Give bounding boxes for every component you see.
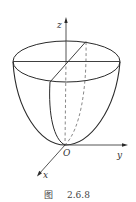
- x-axis-label: x: [43, 170, 48, 180]
- front-parabola: [50, 82, 65, 145]
- z-axis-arrow-icon: [64, 17, 67, 23]
- y-axis-label: y: [116, 150, 123, 160]
- paraboloid-diagram: z y x O 图 2.6.8: [0, 0, 136, 202]
- z-axis-hidden: [65, 61, 66, 145]
- back-parabola-hidden: [65, 42, 86, 145]
- y-axis-arrow-icon: [122, 143, 128, 146]
- caption-prefix: 图: [44, 190, 53, 200]
- caption-number: 2.6.8: [67, 190, 90, 200]
- z-axis-label: z: [56, 20, 62, 30]
- paraboloid-outline: [13, 62, 120, 145]
- origin-label: O: [63, 148, 71, 158]
